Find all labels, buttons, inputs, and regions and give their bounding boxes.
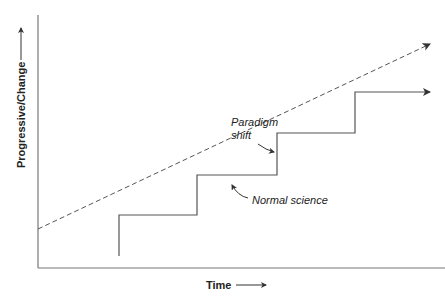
normal-science-annotation: Normal science — [232, 185, 328, 206]
normal-science-label: Normal science — [252, 194, 328, 206]
paradigm-shift-label-line2: shift — [231, 129, 252, 141]
x-axis-label: Time — [206, 279, 231, 291]
x-axis-label-group: Time — [206, 279, 266, 291]
axes — [38, 15, 445, 268]
normal-science-pointer-arrow — [232, 185, 248, 198]
paradigm-shift-pointer-arrow — [258, 144, 274, 152]
paradigm-shift-annotation: Paradigm shift — [231, 116, 278, 152]
y-axis-label: Progressive/Change — [15, 62, 27, 168]
paradigm-shift-label-line1: Paradigm — [231, 116, 278, 128]
paradigm-shift-diagram: Progressive/Change Time Paradigm shift N… — [0, 0, 445, 301]
y-axis-label-group: Progressive/Change — [15, 28, 27, 168]
